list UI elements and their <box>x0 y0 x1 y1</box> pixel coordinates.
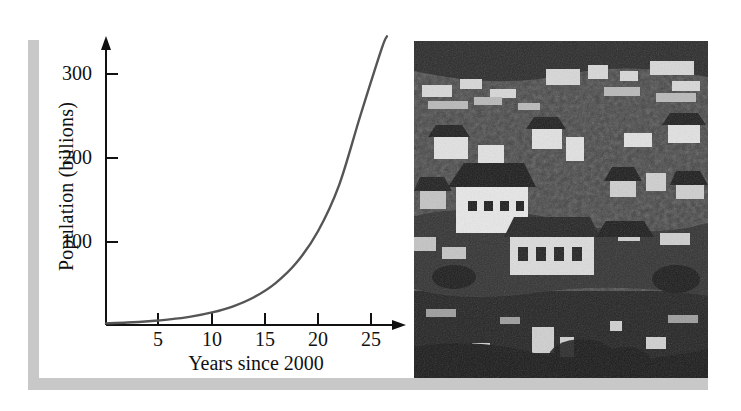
x-tick-label-10: 10 <box>192 328 232 351</box>
x-axis-title: Years since 2000 <box>106 352 406 375</box>
population-chart: 300 200 100 5 10 15 20 25 Population (bi… <box>0 0 410 400</box>
x-axis-arrowhead <box>392 320 406 330</box>
photo-graphic <box>414 41 708 378</box>
figure-page: 300 200 100 5 10 15 20 25 Population (bi… <box>0 0 741 411</box>
y-axis-title: Population (billions) <box>55 57 78 317</box>
settlement-photograph <box>414 41 708 378</box>
y-axis-arrowhead <box>101 36 111 50</box>
x-tick-label-15: 15 <box>245 328 285 351</box>
population-curve <box>106 36 387 323</box>
x-tick-label-25: 25 <box>351 328 391 351</box>
x-tick-label-20: 20 <box>298 328 338 351</box>
x-tick-label-5: 5 <box>138 328 178 351</box>
